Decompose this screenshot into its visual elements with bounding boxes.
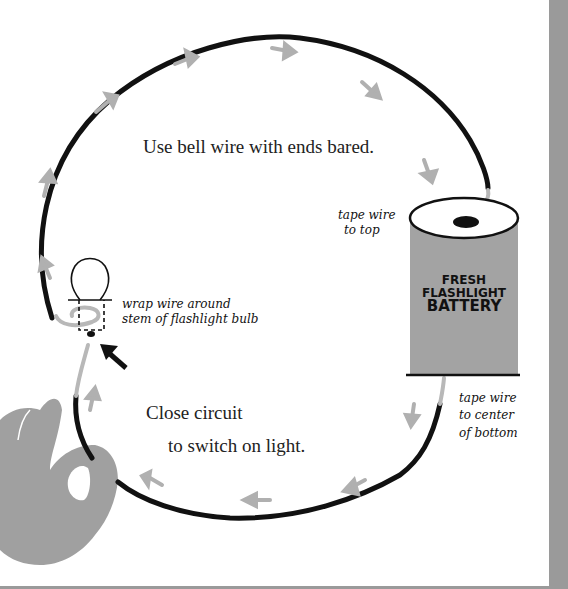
bulb-label: wrap wire around stem of flashlight bulb (122, 297, 258, 327)
arrow-icon (96, 94, 117, 112)
arrow-icon (142, 472, 162, 485)
bulb-label-line-1: wrap wire around (122, 297, 258, 312)
bottom-tape-line-1: tape wire (459, 390, 518, 407)
top-tape-label: tape wire to top (338, 208, 396, 238)
bottom-tape-label: tape wire to center of bottom (459, 390, 518, 442)
top-tape-line-1: tape wire (338, 208, 396, 223)
arrow-icon (422, 160, 436, 182)
bulb-label-line-2: stem of flashlight bulb (122, 312, 258, 327)
diagram-title: Use bell wire with ends bared. (143, 137, 374, 156)
arrow-icon (272, 44, 295, 58)
instruction-line-1: Close circuit (146, 403, 243, 422)
bottom-tape-line-3: of bottom (459, 425, 518, 442)
hand-icon (0, 399, 118, 565)
diagram-page: Use bell wire with ends bared. Close cir… (0, 0, 568, 589)
arrow-icon (362, 82, 380, 98)
arrow-icon (406, 404, 418, 426)
arrow-icon (244, 494, 270, 506)
pointer-arrow-icon (100, 344, 126, 368)
page-edge-right (549, 0, 568, 589)
battery-line-1: FRESH (410, 274, 518, 287)
battery-label: FRESH FLASHLIGHT BATTERY (410, 274, 518, 315)
battery-line-3: BATTERY (410, 299, 518, 315)
top-tape-line-2: to top (338, 223, 396, 238)
arrow-icon (87, 388, 99, 410)
instruction-line-2: to switch on light. (168, 436, 305, 455)
bottom-tape-line-2: to center (459, 407, 518, 424)
